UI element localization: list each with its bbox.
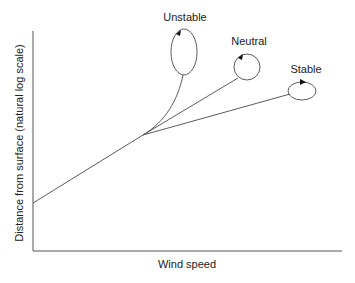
neutral-profile xyxy=(143,54,260,135)
wind-profile-diagram: Unstable Neutral Stable Wind speed Dista… xyxy=(0,0,355,283)
stable-profile xyxy=(143,79,316,135)
common-profile-line xyxy=(33,135,143,203)
y-axis-label: Distance from surface (natural log scale… xyxy=(13,44,25,241)
neutral-eddy-icon xyxy=(234,54,260,80)
neutral-profile-line xyxy=(143,78,238,135)
stable-label: Stable xyxy=(290,63,321,75)
neutral-label: Neutral xyxy=(231,35,266,47)
stable-rotation-arrow-icon xyxy=(300,79,306,85)
unstable-label: Unstable xyxy=(163,11,206,23)
x-axis-label: Wind speed xyxy=(158,258,216,270)
stable-profile-line xyxy=(143,94,290,135)
unstable-eddy-icon xyxy=(171,29,197,75)
stable-eddy-icon xyxy=(288,82,316,100)
unstable-profile-curve xyxy=(143,75,183,135)
